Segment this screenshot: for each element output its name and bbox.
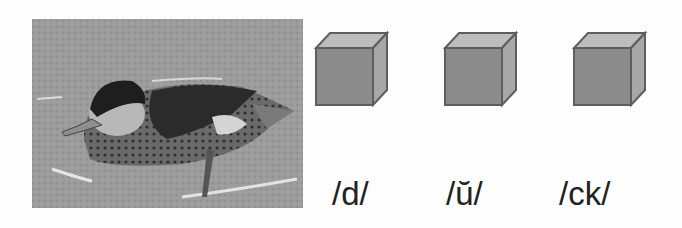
- cube-icon: [443, 31, 519, 107]
- phoneme-label-ck: /ck/: [559, 174, 610, 214]
- cube-icon: [314, 31, 390, 107]
- sound-box-3: [572, 31, 648, 107]
- sound-box-2: [443, 31, 519, 107]
- phoneme-label-u: /ŭ/: [446, 174, 483, 214]
- cube-icon: [572, 31, 648, 107]
- duck-illustration: [32, 19, 303, 208]
- duck-photo: [32, 19, 303, 208]
- sound-box-1: [314, 31, 390, 107]
- phoneme-label-d: /d/: [332, 174, 369, 214]
